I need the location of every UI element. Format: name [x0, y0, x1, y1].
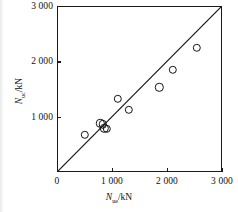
y-tick-mark — [57, 61, 61, 62]
y-axis-unit: /kN — [14, 78, 24, 92]
scatter-chart-figure: 01 0002 0003 000 1 0002 0003 000 Nue/kN … — [0, 0, 238, 212]
y-tick-mark — [57, 6, 61, 7]
y-tick-label: 2 000 — [31, 56, 53, 66]
x-axis-unit: /kN — [118, 192, 132, 202]
page-edge-artifact — [0, 0, 4, 212]
x-tick-label: 1 000 — [101, 176, 123, 186]
x-tick-mark — [222, 168, 223, 172]
x-axis-title: Nue/kN — [106, 192, 132, 204]
x-tick-mark — [167, 168, 168, 172]
y-axis-subscript: uc — [19, 92, 26, 98]
y-axis-symbol: N — [14, 98, 24, 104]
x-tick-label: 2 000 — [156, 176, 178, 186]
y-tick-label: 3 000 — [31, 1, 53, 11]
y-tick-label: 1 000 — [31, 112, 53, 122]
x-tick-label: 0 — [55, 176, 60, 186]
x-tick-label: 3 000 — [211, 176, 233, 186]
y-tick-mark — [57, 117, 61, 118]
plot-frame — [57, 6, 222, 172]
x-tick-mark — [57, 168, 58, 172]
y-axis-title: Nuc/kN — [14, 78, 26, 104]
x-tick-mark — [112, 168, 113, 172]
